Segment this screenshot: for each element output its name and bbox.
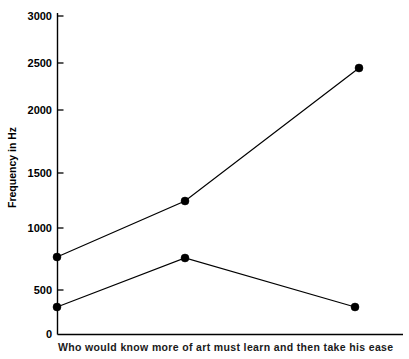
series-lower-point-2 bbox=[181, 254, 189, 262]
series-lower-point-1 bbox=[53, 303, 61, 311]
y-tick-label-1500: 1500 bbox=[28, 167, 52, 179]
chart-figure: 3000 2500 2000 1500 1000 500 0 Frequency… bbox=[0, 0, 409, 359]
series-upper-point-3 bbox=[355, 64, 363, 72]
series-lower-point-3 bbox=[351, 303, 359, 311]
series-upper-point-2 bbox=[181, 197, 189, 205]
y-tick-label-500: 500 bbox=[34, 284, 52, 296]
series-lower-line bbox=[57, 258, 355, 307]
line-chart-plot: 3000 2500 2000 1500 1000 500 0 Frequency… bbox=[0, 0, 409, 359]
y-axis-group: 3000 2500 2000 1500 1000 500 0 bbox=[28, 10, 403, 340]
series-upper-point-1 bbox=[53, 253, 61, 261]
y-tick-label-0: 0 bbox=[46, 328, 52, 340]
y-tick-label-2500: 2500 bbox=[28, 57, 52, 69]
series-upper-line bbox=[57, 68, 359, 257]
series-lower-group bbox=[53, 254, 359, 311]
series-upper-group bbox=[53, 64, 363, 261]
y-axis-ticks bbox=[58, 16, 64, 290]
chart-caption: Who would know more of art must learn an… bbox=[58, 341, 393, 353]
y-tick-label-1000: 1000 bbox=[28, 222, 52, 234]
y-tick-label-3000: 3000 bbox=[28, 10, 52, 22]
y-tick-label-2000: 2000 bbox=[28, 104, 52, 116]
y-axis-title: Frequency in Hz bbox=[6, 127, 18, 208]
